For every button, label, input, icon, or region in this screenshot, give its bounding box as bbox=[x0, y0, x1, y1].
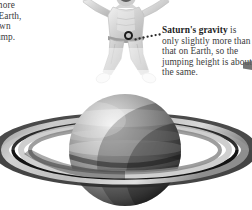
infographic-canvas: ity is more hat of Earth, ack down mall … bbox=[0, 0, 252, 210]
left-note-line-4: mall jump. bbox=[0, 32, 84, 43]
saturn-gravity-note-heading: Saturn's gravity bbox=[162, 25, 228, 35]
left-note-line-2: hat of Earth, bbox=[0, 11, 84, 22]
dotted-leader-line-icon bbox=[134, 27, 162, 35]
left-note-line-1: ity is more bbox=[0, 0, 84, 11]
left-gravity-note: ity is more hat of Earth, ack down mall … bbox=[0, 0, 84, 42]
saturn-planet-illustration bbox=[0, 92, 252, 210]
jumping-person-photo bbox=[82, 0, 170, 100]
left-note-line-3: ack down bbox=[0, 21, 84, 32]
saturn-gravity-note: Saturn's gravity is only slightly more t… bbox=[162, 25, 252, 78]
circle-outline-icon bbox=[124, 31, 133, 40]
